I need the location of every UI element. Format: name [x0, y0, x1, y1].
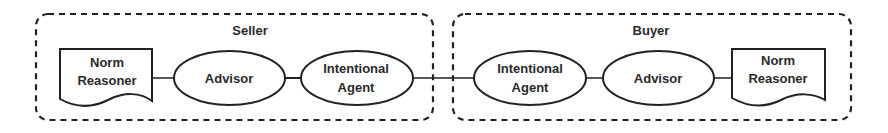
buyer-norm-reasoner-line2: Reasoner — [748, 71, 807, 86]
buyer-intentional-agent-line1: Intentional — [497, 61, 563, 76]
buyer-intentional-agent-node — [474, 51, 586, 105]
seller-norm-reasoner-line2: Reasoner — [77, 73, 136, 88]
seller-group-label: Seller — [232, 23, 267, 38]
buyer-advisor-label: Advisor — [634, 71, 682, 86]
diagram-canvas: Seller Buyer Norm Reasoner Advisor Inten… — [0, 0, 888, 133]
buyer-intentional-agent-line2: Agent — [512, 80, 550, 95]
seller-intentional-agent-line2: Agent — [338, 80, 376, 95]
seller-intentional-agent-line1: Intentional — [323, 61, 389, 76]
seller-intentional-agent-node — [301, 51, 413, 105]
buyer-group-label: Buyer — [633, 23, 670, 38]
seller-norm-reasoner-line1: Norm — [90, 55, 124, 70]
buyer-norm-reasoner-line1: Norm — [761, 53, 795, 68]
seller-advisor-label: Advisor — [205, 71, 253, 86]
